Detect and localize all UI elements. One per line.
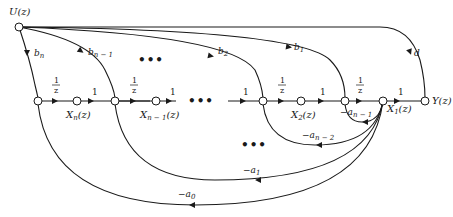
ellipsis-chain: ••• (188, 94, 214, 108)
label-X2: X2(z) (290, 109, 316, 122)
arrow-fb (362, 119, 368, 125)
svg-text:1: 1 (280, 76, 285, 85)
arrow-fb (316, 142, 322, 148)
label-b2: b2 (218, 46, 229, 58)
gain-1-over-z: 1 z (278, 76, 286, 95)
label-a1: −a1 (243, 165, 260, 177)
arrow-fwd (52, 98, 58, 104)
node-X1 (379, 97, 387, 105)
svg-text:1: 1 (54, 76, 59, 85)
label-an-1: −an − 1 (340, 107, 372, 119)
label-bn: bn (34, 48, 45, 60)
arrow-fwd (130, 98, 136, 104)
gain-unity: 1 (398, 87, 404, 97)
svg-text:z: z (280, 86, 284, 95)
node-Y (421, 97, 429, 105)
node-U (15, 23, 23, 31)
svg-text:z: z (132, 86, 136, 95)
gain-1-over-z: 1 z (130, 76, 138, 95)
label-a0: −a0 (178, 189, 196, 201)
label-Y: Y(z) (432, 95, 452, 106)
label-X1: X1(z) (386, 103, 412, 116)
arrow-fwd (240, 98, 246, 104)
gain-1-over-z: 1 z (356, 76, 364, 95)
arrow-fwd (356, 98, 362, 104)
branch-bn (19, 27, 38, 98)
node-X2 (297, 97, 305, 105)
signal-flow-graph: U(z) Y(z) Xn(z) Xn − 1(z) X2(z) X1(z) 1 … (0, 0, 453, 217)
arrow-fwd (278, 98, 284, 104)
label-b1: b1 (294, 42, 304, 54)
label-Xn: Xn(z) (65, 109, 91, 122)
arrow-b2 (207, 52, 214, 59)
arrow-fwd (166, 98, 172, 104)
svg-text:1: 1 (132, 76, 137, 85)
node-sum-2 (259, 97, 267, 105)
label-an-2: −an − 2 (302, 130, 335, 142)
branch-d (19, 27, 425, 98)
gain-unity: 1 (92, 87, 98, 97)
arrow-fwd (318, 98, 324, 104)
node-sum-n-1 (111, 97, 119, 105)
arrow-fwd (88, 98, 94, 104)
gain-unity: 1 (243, 87, 249, 97)
ellipsis-feedback: ••• (241, 138, 267, 152)
label-bn-1: bn − 1 (88, 47, 113, 59)
gain-1-over-z: 1 z (52, 76, 60, 95)
label-d: d (414, 48, 420, 58)
arrow-fb (189, 202, 195, 208)
gain-unity: 1 (320, 87, 326, 97)
arrow-d (406, 48, 414, 56)
gain-unity: 1 (170, 87, 176, 97)
arrow-bn (24, 50, 30, 56)
svg-text:z: z (358, 86, 362, 95)
node-Xn (73, 97, 81, 105)
label-U: U(z) (9, 6, 31, 17)
svg-text:z: z (54, 86, 58, 95)
svg-text:1: 1 (358, 76, 363, 85)
ellipsis-top: ••• (138, 53, 164, 67)
label-Xn-1: Xn − 1(z) (139, 109, 180, 122)
node-Xn-1 (152, 97, 160, 105)
node-sum-1 (341, 97, 349, 105)
branch-b1 (19, 27, 345, 98)
branch-bn-1 (19, 27, 115, 98)
node-sum-n (34, 97, 42, 105)
